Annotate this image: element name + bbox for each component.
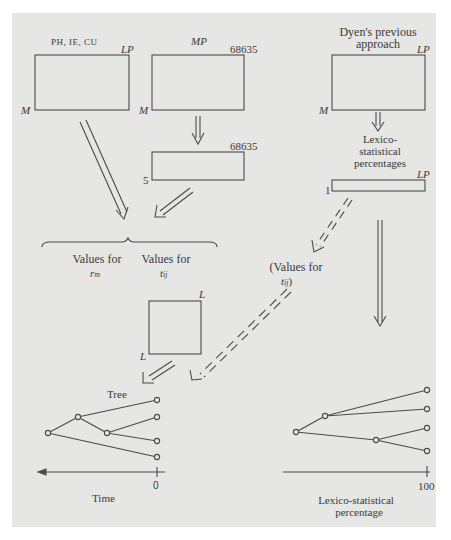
values-tij-paren-symbol: tij)	[281, 275, 292, 289]
dashed-double-arrow-values-to-tree	[200, 289, 291, 377]
brace	[42, 238, 217, 247]
double-arrow-small-matrix-to-values	[155, 188, 193, 217]
square-l-top-label: L	[199, 288, 205, 300]
matrix-l-by-l	[149, 301, 201, 354]
lexico-axis-tick-100: 100	[418, 480, 435, 492]
matrix2-68635-label: 68635	[230, 43, 258, 55]
double-arrow-square-to-tree	[143, 361, 175, 383]
strip-1-label: 1	[325, 184, 331, 196]
matrix1-m-label: M	[21, 104, 30, 116]
double-arrow-dyen-down	[372, 112, 384, 131]
matrix3-68635-label: 68635	[230, 140, 258, 152]
values-rm-line1: Values for	[73, 253, 122, 265]
matrix-ph-ie-cu	[35, 55, 129, 110]
tree-right	[296, 390, 427, 451]
matrix3-5-label: 5	[143, 174, 149, 186]
dyen-m-label: M	[319, 104, 328, 116]
lexico-axis-label-line1: Lexico-statistical	[318, 494, 394, 506]
matrix-mp	[152, 55, 244, 110]
matrix-5x68635	[152, 152, 244, 180]
matrix1-lp-label: LP	[121, 43, 134, 55]
dashed-arrow-head-2	[190, 370, 202, 380]
square-l-bottom-label: L	[140, 350, 146, 362]
lexico-label-line1: Lexico-	[363, 133, 397, 145]
matrix2-title: MP	[191, 35, 207, 47]
dashed-double-arrow-strip-to-values	[316, 198, 352, 247]
dyen-title-line2: approach	[356, 38, 400, 50]
tree-title: Tree	[107, 388, 127, 400]
time-axis-tick-0: 0	[153, 480, 159, 492]
values-rm-symbol: rm	[90, 267, 100, 281]
diagram-canvas	[0, 0, 451, 540]
lexico-axis-label-line2: percentage	[335, 506, 383, 518]
lexico-label-line2: statistical	[359, 145, 401, 157]
time-axis-label: Time	[92, 492, 115, 504]
strip-lp-label: LP	[417, 168, 430, 180]
tree-right-nodes	[293, 387, 429, 453]
lexico-strip	[332, 180, 425, 191]
dashed-arrow-head-1	[312, 240, 324, 252]
double-arrow-mp-down	[192, 116, 204, 144]
matrix-dyen	[332, 55, 425, 110]
tree-left	[48, 400, 157, 457]
values-tij-paren-line1: (Values for	[270, 261, 323, 273]
matrix1-title: PH, IE, CU	[51, 36, 98, 48]
matrix2-m-label: M	[139, 104, 148, 116]
values-tij-symbol: tij	[160, 267, 168, 281]
double-arrow-matrix1-to-values	[80, 120, 128, 219]
dyen-lp-label: LP	[417, 43, 430, 55]
tree-left-nodes	[45, 397, 159, 459]
double-arrow-lexico-to-tree	[374, 220, 386, 326]
lexico-label-line3: percentages	[354, 157, 406, 169]
values-tij-line1: Values for	[142, 253, 191, 265]
